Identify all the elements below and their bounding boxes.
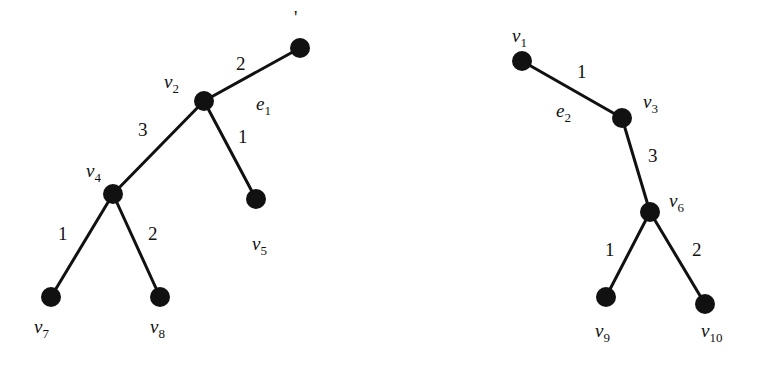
weight-v4-v8: 2 [148, 223, 158, 244]
node-v8 [150, 287, 170, 307]
label-v9: v9 [595, 320, 610, 345]
label-v10: v10 [701, 320, 722, 345]
top-node-label-partial: ' [294, 7, 297, 28]
right-tree: 1 3 1 2 v1 e2 v3 v6 v9 v10 [512, 25, 722, 345]
weight-v1-v3: 1 [577, 61, 587, 82]
node-v10 [695, 294, 715, 314]
weight-top-v2: 2 [236, 53, 246, 74]
weight-v4-v7: 1 [58, 223, 68, 244]
edge-v2-v5 [204, 101, 256, 199]
label-v6: v6 [669, 190, 684, 215]
label-v4: v4 [86, 160, 101, 185]
label-e1: e1 [256, 93, 271, 118]
weighted-trees-diagram: ' 2 3 1 1 2 v2 e1 v4 v5 v7 v8 1 3 1 2 v1… [0, 0, 762, 377]
label-v7: v7 [34, 316, 49, 341]
label-v2: v2 [164, 71, 179, 96]
node-v4 [103, 184, 123, 204]
weight-v2-v4: 3 [138, 119, 148, 140]
weight-v3-v6: 3 [648, 145, 658, 166]
edge-v4-v8 [113, 194, 160, 297]
node-v7 [41, 287, 61, 307]
weight-v6-v10: 2 [692, 239, 702, 260]
node-v9 [596, 287, 616, 307]
node-v1 [512, 51, 532, 71]
edge-v4-v7 [51, 194, 113, 297]
node-v6 [640, 202, 660, 222]
label-v3: v3 [643, 91, 658, 116]
weight-v2-v5: 1 [238, 126, 248, 147]
edge-top-v2 [204, 48, 300, 101]
edge-v1-v3 [522, 61, 622, 118]
edge-v3-v6 [622, 118, 650, 212]
label-v5: v5 [252, 233, 267, 258]
node-v2 [194, 91, 214, 111]
node-v3 [612, 108, 632, 128]
label-v1: v1 [512, 25, 527, 50]
edge-v2-v4 [113, 101, 204, 194]
left-tree: ' 2 3 1 1 2 v2 e1 v4 v5 v7 v8 [34, 7, 310, 341]
node-top [290, 38, 310, 58]
node-v5 [246, 189, 266, 209]
weight-v6-v9: 1 [605, 239, 615, 260]
label-v8: v8 [150, 316, 165, 341]
label-e2: e2 [556, 100, 571, 125]
